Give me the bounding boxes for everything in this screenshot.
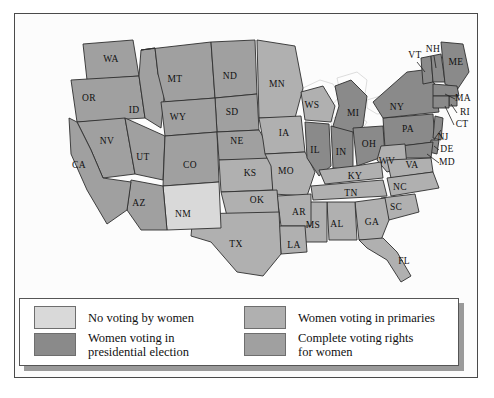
state-label-TN: TN <box>344 188 357 198</box>
state-label-CO: CO <box>183 160 197 170</box>
state-label-KS: KS <box>244 168 257 178</box>
legend-item-presidential[interactable]: Women voting in presidential election <box>34 331 238 359</box>
map-legend: No voting by women Women voting in prima… <box>19 298 459 366</box>
legend-swatch-complete <box>244 333 286 356</box>
state-label-GA: GA <box>365 217 379 227</box>
state-label-PA: PA <box>402 124 414 134</box>
state-label-AR: AR <box>292 207 306 217</box>
state-label-MS: MS <box>306 220 320 230</box>
legend-label-no-voting: No voting by women <box>88 311 194 325</box>
map-area: WAORIDMTNDSDMNWSMINYVTNHMEMARICTPANJDEMD… <box>15 14 477 296</box>
state-label-IN: IN <box>336 147 347 157</box>
state-label-OR: OR <box>82 93 96 103</box>
state-label-SC: SC <box>390 202 402 212</box>
state-label-UT: UT <box>136 152 149 162</box>
state-label-SD: SD <box>226 107 239 117</box>
state-label-MT: MT <box>168 74 183 84</box>
state-label-CT: CT <box>456 119 469 129</box>
legend-item-no-voting[interactable]: No voting by women <box>34 306 238 329</box>
state-label-KY: KY <box>348 171 362 181</box>
state-label-CA: CA <box>72 160 86 170</box>
state-label-MI: MI <box>347 108 359 118</box>
state-label-ME: ME <box>449 57 464 67</box>
state-label-WY: WY <box>170 112 186 122</box>
legend-label-presidential: Women voting in presidential election <box>88 331 189 359</box>
state-NM[interactable] <box>163 182 221 230</box>
state-label-OK: OK <box>250 195 264 205</box>
legend-swatch-presidential <box>34 333 76 356</box>
state-label-FL: FL <box>398 256 410 266</box>
state-label-NC: NC <box>393 182 407 192</box>
state-label-NJ: NJ <box>437 132 448 142</box>
state-label-NM: NM <box>175 209 191 219</box>
state-label-WA: WA <box>103 54 118 64</box>
us-map-svg: WAORIDMTNDSDMNWSMINYVTNHMEMARICTPANJDEMD… <box>15 14 477 296</box>
state-label-NE: NE <box>230 136 243 146</box>
state-label-WV: WV <box>379 156 395 166</box>
legend-item-primaries[interactable]: Women voting in primaries <box>244 306 448 329</box>
state-label-MN: MN <box>269 79 285 89</box>
state-label-VT: VT <box>408 50 421 60</box>
legend-label-complete: Complete voting rights for women <box>298 331 413 359</box>
legend-swatch-no-voting <box>34 306 76 329</box>
state-label-OH: OH <box>362 139 376 149</box>
state-label-LA: LA <box>287 240 300 250</box>
state-label-DE: DE <box>440 144 453 154</box>
state-label-WS: WS <box>305 100 320 110</box>
state-label-NH: NH <box>426 44 440 54</box>
state-ND[interactable] <box>211 40 257 98</box>
suffrage-map-figure: WAORIDMTNDSDMNWSMINYVTNHMEMARICTPANJDEMD… <box>0 0 494 398</box>
state-label-MA: MA <box>455 93 471 103</box>
state-label-TX: TX <box>229 239 242 249</box>
state-label-VA: VA <box>405 160 418 170</box>
state-label-MD: MD <box>439 157 455 167</box>
legend-swatch-primaries <box>244 306 286 329</box>
state-label-AL: AL <box>330 219 343 229</box>
state-label-MO: MO <box>278 166 294 176</box>
state-label-NY: NY <box>390 102 404 112</box>
legend-item-complete[interactable]: Complete voting rights for women <box>244 331 448 359</box>
state-CT[interactable] <box>433 96 449 108</box>
state-label-RI: RI <box>460 107 470 117</box>
state-label-IL: IL <box>310 145 320 155</box>
state-CO[interactable] <box>163 132 219 186</box>
state-label-AZ: AZ <box>132 198 145 208</box>
state-label-ID: ID <box>129 105 140 115</box>
state-label-ND: ND <box>223 71 237 81</box>
state-label-IA: IA <box>279 128 290 138</box>
legend-label-primaries: Women voting in primaries <box>298 311 435 325</box>
state-label-NV: NV <box>100 136 114 146</box>
